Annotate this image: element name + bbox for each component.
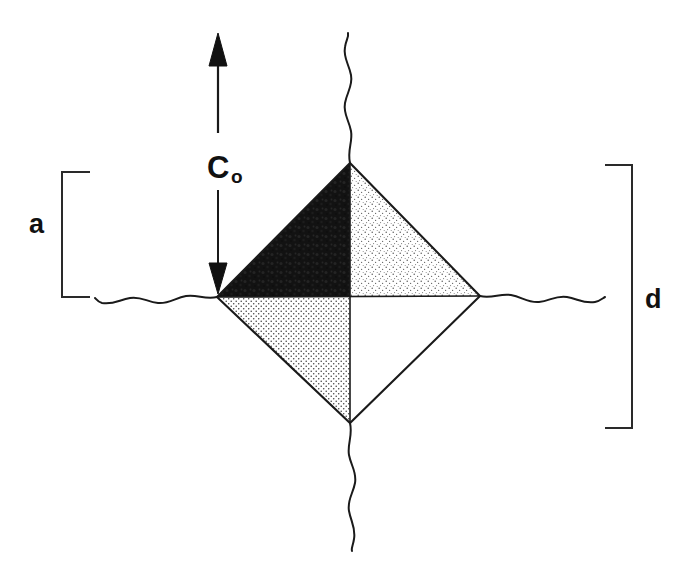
crack-line-bottom [349, 423, 356, 551]
crack-diagram-svg [0, 0, 690, 579]
dimension-label-d: d [645, 286, 662, 313]
figure-root: Co a d [0, 0, 690, 579]
crack-line-right [480, 295, 605, 303]
diamond-quadrants [217, 163, 480, 423]
crack-line-left [95, 296, 217, 304]
load-symbol-label: Co [207, 152, 242, 183]
dimension-bracket-d [605, 165, 632, 428]
load-symbol-base: C [207, 150, 230, 185]
dimension-label-a: a [29, 211, 44, 238]
diamond-horizontal-axis [217, 296, 480, 297]
crack-line-top [345, 33, 352, 163]
dimension-bracket-a [62, 172, 90, 297]
load-symbol-subscript: o [231, 166, 243, 187]
up-arrow-head [209, 33, 227, 66]
